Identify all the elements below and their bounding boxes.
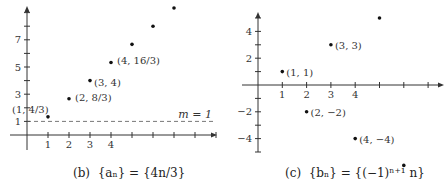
point-label: (3, 4) (94, 77, 121, 88)
data-point (305, 110, 309, 114)
data-point (353, 137, 357, 141)
y-tick-label: 5 (15, 62, 21, 73)
data-point (151, 24, 155, 28)
caption-b-prefix: (b) (73, 166, 90, 180)
point-label: (2, −2) (311, 107, 346, 118)
caption-c-prefix: (c) (285, 166, 301, 180)
y-tick-label: −4 (237, 133, 252, 144)
x-axis-arrow-icon (438, 83, 444, 88)
plot-c: 123442−2−4(1, 1)(2, −2)(3, 3)(4, −4) (237, 12, 444, 167)
x-tick-label: 3 (328, 89, 334, 100)
data-point (46, 115, 50, 119)
data-point (130, 43, 134, 47)
y-tick-label: 3 (15, 89, 21, 100)
data-point (109, 61, 113, 65)
y-tick-label: −2 (237, 106, 252, 117)
plot-b: 12341357m = 1(1, 4/3)(2, 8/3)(3, 4)(4, 1… (10, 6, 217, 150)
caption-c: (c) {bₙ} = {(−1)ⁿ⁺¹ n} (285, 166, 425, 180)
caption-c-formula: {bₙ} = {(−1)ⁿ⁺¹ n} (309, 166, 425, 180)
y-tick-label: 2 (246, 53, 252, 64)
point-label: (3, 3) (335, 40, 362, 51)
figure-canvas: 12341357m = 1(1, 4/3)(2, 8/3)(3, 4)(4, 1… (0, 0, 447, 192)
x-tick-label: 4 (352, 89, 358, 100)
y-tick-label: 1 (15, 116, 21, 127)
data-point (88, 79, 92, 83)
y-axis-arrow-icon (256, 12, 261, 18)
data-point (67, 97, 71, 101)
point-label: (4, 16/3) (117, 55, 160, 66)
data-point (172, 6, 176, 10)
x-tick-label: 3 (87, 139, 93, 150)
caption-b-formula: {aₙ} = {4n/3} (98, 166, 186, 180)
reference-line-label: m = 1 (178, 108, 212, 121)
y-tick-label: 7 (15, 34, 21, 45)
data-point (281, 70, 285, 74)
caption-b: (b) {aₙ} = {4n/3} (73, 166, 185, 180)
y-axis-arrow-icon (25, 6, 30, 12)
data-point (329, 43, 333, 47)
x-tick-label: 2 (66, 139, 72, 150)
y-tick-label: 4 (246, 26, 252, 37)
x-tick-label: 1 (279, 89, 285, 100)
x-tick-label: 4 (108, 139, 114, 150)
point-label: (2, 8/3) (75, 92, 112, 103)
point-label: (1, 1) (286, 67, 313, 78)
data-point (378, 16, 382, 20)
x-tick-label: 1 (45, 139, 51, 150)
point-label: (1, 4/3) (12, 104, 49, 115)
point-label: (4, −4) (359, 134, 394, 145)
x-tick-label: 2 (303, 89, 309, 100)
